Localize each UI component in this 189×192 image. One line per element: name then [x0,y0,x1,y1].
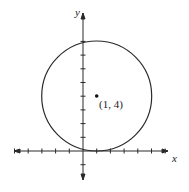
diagram: y x (1, 4) [0,0,189,192]
center-label: (1, 4) [99,98,123,110]
y-axis-arrow-top [81,13,85,19]
y-axis-arrow-bottom [81,174,85,180]
y-axis-label: y [75,6,80,18]
coordinate-plane [0,0,189,192]
center-point [95,94,99,98]
x-axis-label: x [172,152,177,164]
